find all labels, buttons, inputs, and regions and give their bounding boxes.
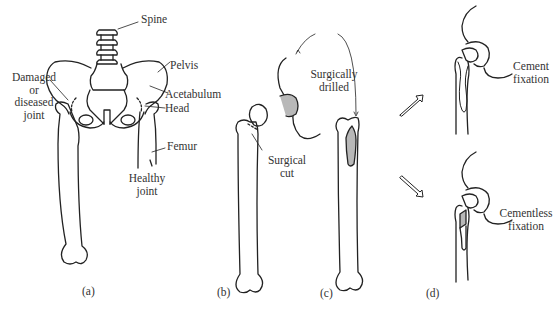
cement-fixation-illustration <box>455 6 512 134</box>
caption-a: (a) <box>82 285 95 297</box>
leader-lines-a <box>50 22 170 152</box>
label-damaged-joint: Damaged or diseased joint <box>6 71 62 121</box>
label-spine: Spine <box>141 13 167 26</box>
label-surgically-drilled: Surgically drilled <box>304 68 364 93</box>
spine-vertebrae <box>97 30 118 64</box>
label-surgical-cut: Surgical cut <box>262 154 312 179</box>
label-cement-fixation: Cement fixation <box>508 60 554 85</box>
label-femur: Femur <box>167 140 197 153</box>
caption-d: (d) <box>426 287 439 299</box>
label-pelvis: Pelvis <box>170 59 198 72</box>
pelvis-illustration <box>47 30 168 264</box>
label-head: Head <box>165 102 189 115</box>
arrow-up-right-icon <box>400 95 423 116</box>
label-healthy-joint: Healthy joint <box>122 172 172 197</box>
label-cementless-fixation: Cementless fixation <box>496 207 556 232</box>
caption-b: (b) <box>217 286 230 298</box>
label-acetabulum: Acetabulum <box>165 88 221 101</box>
arrow-down-right-icon <box>400 176 423 197</box>
caption-c: (c) <box>320 287 333 299</box>
